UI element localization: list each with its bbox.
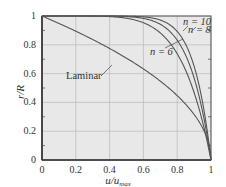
x-axis-ticks: 00.20.40.60.81 [40,164,214,175]
svg-text:Laminar: Laminar [66,70,102,81]
plot-background [42,16,211,160]
svg-text:n = 10: n = 10 [183,16,212,27]
y-axis-label: r/R [14,85,26,99]
x-tick-label: 1 [209,164,214,175]
x-tick-label: 0.2 [70,164,83,175]
x-tick-label: 0 [40,164,45,175]
plot-area [42,16,211,160]
y-tick-label: 0.2 [24,125,37,136]
y-tick-label: 1 [31,10,36,21]
y-tick-label: 0.6 [24,68,37,79]
velocity-profile-chart: 00.20.40.60.81 00.20.40.60.81 r/R u/umax… [0,0,226,187]
y-tick-label: 0.8 [24,39,37,50]
svg-text:n = 6: n = 6 [150,46,174,57]
x-tick-label: 0.8 [171,164,184,175]
x-axis-label: u/umax [105,174,132,187]
x-tick-label: 0.6 [137,164,150,175]
y-tick-label: 0 [31,154,36,165]
